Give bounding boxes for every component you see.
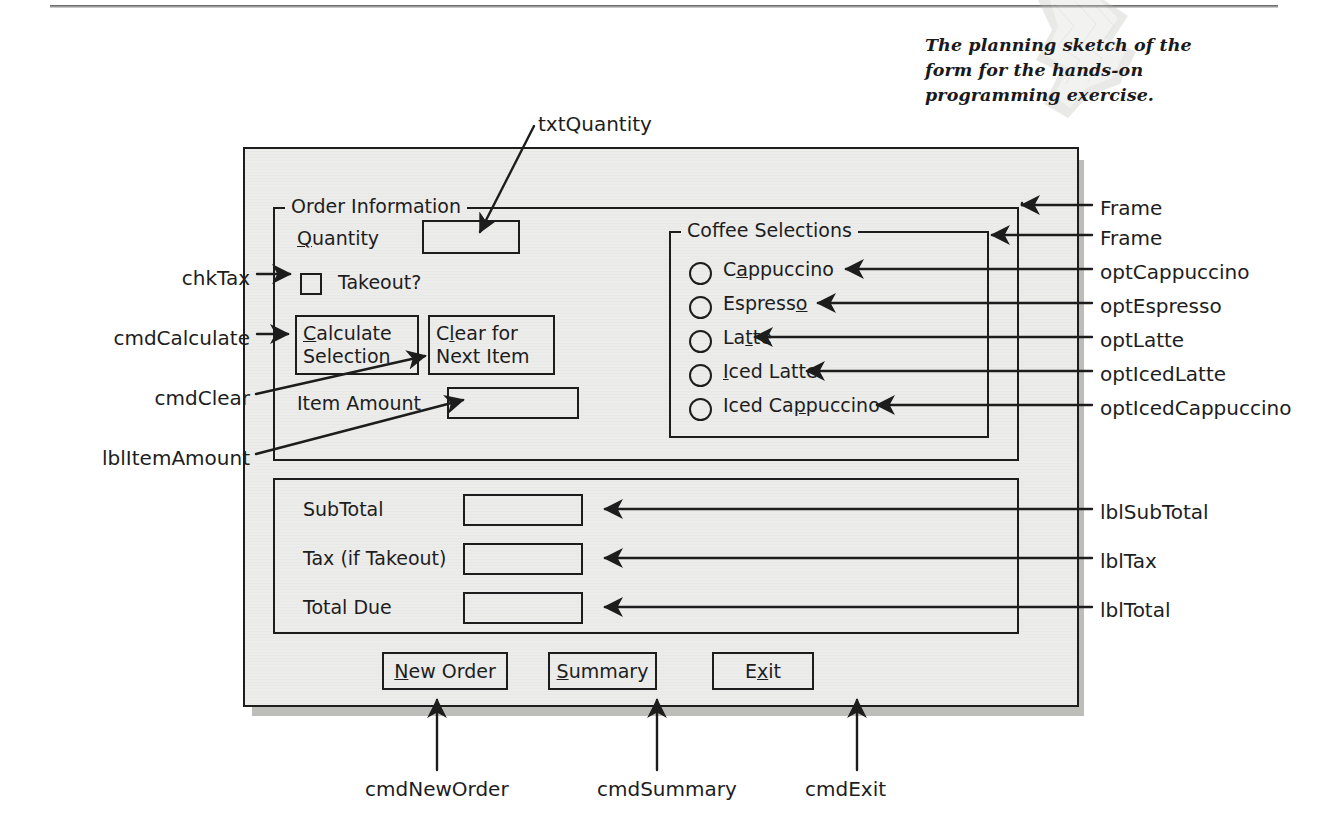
callout-cmdexit: cmdExit [805,777,886,801]
calculate-line-1: Calculate [303,322,392,345]
callout-chktax: chkTax [140,266,250,290]
order-information-legend: Order Information [285,195,467,217]
radio-label-espresso: Espresso [723,292,807,314]
callout-optcappuccino: optCappuccino [1100,260,1250,284]
exit-button[interactable]: Exit [712,652,814,690]
figure-caption: The planning sketch of the form for the … [925,33,1245,108]
item-amount-label: Item Amount [297,392,421,414]
radio-espresso[interactable] [689,296,712,319]
radio-label-latte: Latte [723,326,772,348]
new-order-accel: N [394,660,408,682]
total-due-label: Total Due [303,596,392,618]
radio-label-iced-cappuccino: Iced Cappuccino [723,394,880,416]
callout-frame-outer: Frame [1100,196,1162,220]
new-order-button[interactable]: New Order [382,652,508,690]
summary-accel: S [557,660,569,682]
tax-box [463,543,583,575]
summary-button[interactable]: Summary [548,652,657,690]
calculate-accel: C [303,322,316,344]
quantity-accel: Q [297,227,312,249]
callout-lblsubtotal: lblSubTotal [1100,500,1209,524]
callout-optespresso: optEspresso [1100,294,1222,318]
coffee-selections-legend: Coffee Selections [681,219,858,241]
radio-iced-latte[interactable] [689,364,712,387]
clear-line-1: Clear for [436,322,518,345]
quantity-label-rest: uantity [312,227,379,249]
callout-optlatte: optLatte [1100,328,1184,352]
quantity-textbox[interactable] [422,220,520,254]
iced-latte-accel: I [723,360,729,382]
clear-next-item-button[interactable]: Clear for Next Item [428,315,555,375]
callout-lbltax: lblTax [1100,549,1157,573]
clear-accel: l [449,322,454,344]
sketched-form-window: Order Information Quantity Takeout? Calc… [243,147,1079,707]
new-order-caption: New Order [394,660,495,683]
callout-cmdneworder: cmdNewOrder [365,777,509,801]
radio-cappuccino[interactable] [689,262,712,285]
espresso-accel: o [796,292,808,314]
page-root: The planning sketch of the form for the … [0,0,1343,829]
exit-caption: Exit [745,660,781,683]
callout-cmdsummary: cmdSummary [597,777,737,801]
calculate-line-2: Selection [303,345,391,368]
summary-caption: Summary [557,660,649,683]
calculate-selection-button[interactable]: Calculate Selection [295,315,419,375]
item-amount-box [447,387,579,419]
header-rule [50,5,1278,8]
radio-label-cappuccino: Cappuccino [723,258,834,280]
subtotal-box [463,494,583,526]
callout-txtquantity: txtQuantity [538,112,652,136]
takeout-label: Takeout? [338,271,421,293]
tax-label: Tax (if Takeout) [303,547,446,569]
takeout-checkbox[interactable] [300,273,322,295]
exit-accel: x [757,660,768,682]
subtotal-label: SubTotal [303,498,384,520]
quantity-label: Quantity [297,227,379,249]
callout-cmdclear: cmdClear [110,386,250,410]
latte-accel: t [745,326,752,348]
radio-latte[interactable] [689,330,712,353]
radio-label-iced-latte: Iced Latte [723,360,818,382]
callout-lbltotal: lblTotal [1100,598,1171,622]
callout-cmdcalculate: cmdCalculate [66,326,250,350]
clear-line-2: Next Item [436,345,530,368]
total-due-box [463,592,583,624]
callout-lblitemamount: lblItemAmount [56,446,250,470]
callout-frame-inner: Frame [1100,226,1162,250]
radio-iced-cappuccino[interactable] [689,398,712,421]
callout-opticedlatte: optIcedLatte [1100,362,1226,386]
callout-opticedcappuccino: optIcedCappuccino [1100,396,1291,420]
cappuccino-accel: a [736,258,748,280]
iced-cappuccino-accel: p [794,394,806,416]
